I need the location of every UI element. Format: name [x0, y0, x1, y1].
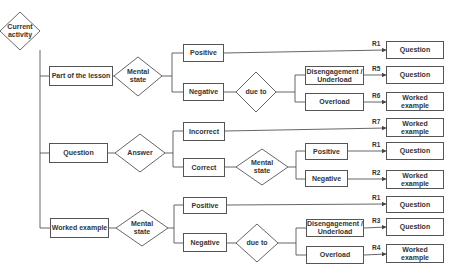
rule-tag: R2 [372, 169, 380, 176]
rule-tag: R7 [372, 118, 380, 125]
due-to-decision-1: due to [242, 82, 270, 102]
rule-tag: R6 [372, 92, 380, 99]
state-positive-2: Positive [305, 143, 348, 160]
rule-tag: R5 [372, 65, 380, 72]
outcome-positive-3: Positive [183, 197, 227, 214]
outcome-incorrect: Incorrect [183, 122, 225, 141]
outcome-negative-1: Negative [183, 83, 224, 101]
rule-tag: R4 [372, 244, 380, 251]
result-box: Worked example [386, 118, 444, 137]
result-box: Question [386, 218, 444, 236]
outcome-negative-3: Negative [183, 233, 227, 252]
state-negative-2: Negative [305, 170, 348, 187]
activity-worked-example: Worked example [50, 218, 109, 238]
rule-tag: R3 [372, 217, 380, 224]
result-box: Question [386, 142, 444, 160]
cause-overload-3: Overload [306, 246, 364, 264]
cause-overload-1: Overload [305, 93, 364, 111]
rule-tag: R1 [372, 141, 380, 148]
result-box: Worked example [386, 244, 444, 263]
rule-tag: R1 [372, 40, 380, 47]
outcome-correct: Correct [183, 158, 225, 177]
result-box: Worked example [386, 92, 444, 111]
mental-state-decision-1: Mental state [120, 66, 156, 86]
activity-question: Question [49, 143, 108, 163]
activity-part-of-lesson: Part of the lesson [49, 66, 113, 86]
outcome-positive-1: Positive [183, 44, 224, 62]
mental-state-decision-2: Mental state [244, 157, 280, 177]
root-decision-label: Current activity [4, 20, 36, 42]
answer-decision: Answer [120, 146, 160, 160]
cause-disengagement-3: Disengagement / Underload [306, 219, 364, 237]
result-box: Question [386, 66, 444, 84]
result-box: Question [386, 41, 444, 59]
cause-disengagement-1: Disengagement / Underload [305, 66, 364, 85]
result-box: Worked example [386, 170, 444, 189]
due-to-decision-3: due to [243, 233, 271, 253]
rule-tag: R1 [372, 194, 380, 201]
mental-state-decision-3: Mental state [124, 218, 160, 238]
result-box: Question [386, 196, 444, 213]
